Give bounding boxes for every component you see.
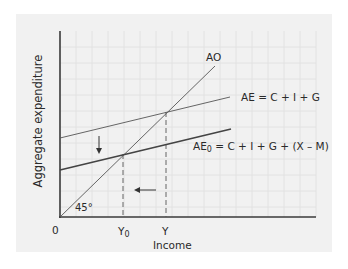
ae0-label-rest: = C + I + G + (X – M)	[212, 140, 329, 152]
x-tick-y0: Y0	[118, 226, 130, 239]
x-tick-y: Y	[162, 226, 168, 237]
origin-label: 0	[52, 225, 59, 236]
ae-line	[60, 97, 230, 138]
y-axis-label: Aggregate expenditure	[31, 55, 45, 188]
ae0-label-main: AE	[193, 140, 207, 152]
ae0-label: AE0 = C + I + G + (X – M)	[193, 141, 329, 154]
ao-label: AO	[206, 52, 221, 63]
down-arrow-icon	[96, 136, 102, 154]
x-tick-y0-sub: 0	[124, 230, 129, 239]
angle-label: 45°	[75, 203, 93, 213]
left-arrow-icon	[134, 187, 156, 193]
ao-line	[60, 66, 215, 217]
x-axis-label: Income	[153, 240, 192, 251]
ae-label: AE = C + I + G	[241, 92, 320, 103]
grid	[60, 31, 316, 217]
